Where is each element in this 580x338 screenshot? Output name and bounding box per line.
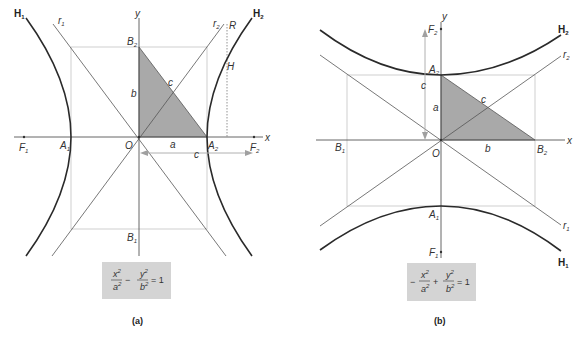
label-F1-b: F1: [429, 247, 438, 259]
label-O-a: O: [125, 140, 133, 151]
label-A2-a: A2: [207, 140, 219, 152]
label-x-b: x: [566, 135, 573, 146]
label-y-b: y: [441, 11, 448, 22]
figure-b: H2 H1 r2 r1 y x F2 F1 A2 A1 c a c b O B1…: [316, 11, 573, 326]
hyperbola-branch-H1-b: [320, 206, 561, 251]
figure-a: H1 H2 r1 r2 R H y x B2 B1 b c a O A1 A2 …: [14, 8, 271, 326]
caption-a: (a): [132, 316, 143, 326]
svg-text:+: +: [433, 277, 438, 287]
label-B2-b: B2: [537, 144, 548, 156]
label-A1-b: A1: [428, 209, 439, 221]
label-B1-a: B1: [127, 232, 137, 244]
label-a-b: a: [433, 102, 439, 113]
label-r2-a: r2: [213, 18, 220, 30]
label-r1-a: r1: [58, 15, 65, 27]
label-A1-a: A1: [59, 140, 70, 152]
label-O-b: O: [432, 148, 440, 159]
label-F2-a: F2: [250, 142, 260, 154]
label-H2-b: H2: [558, 24, 569, 36]
label-F1-a: F1: [19, 142, 28, 154]
focus-F1-dot-b: [440, 251, 442, 253]
label-y-a: y: [134, 8, 141, 19]
label-H1-b: H1: [558, 257, 569, 269]
focus-F2-dot-b: [440, 28, 442, 30]
label-c-arrow-b: c: [421, 80, 426, 91]
asymptote-r2-a: [52, 24, 224, 256]
label-a-a: a: [170, 139, 176, 150]
label-c-hyp-a: c: [168, 77, 173, 88]
hyperbola-diagrams: H1 H2 r1 r2 R H y x B2 B1 b c a O A1 A2 …: [0, 0, 580, 338]
origin-dot-a: [138, 136, 140, 138]
label-b-a: b: [131, 88, 137, 99]
arrowhead-down-b: [422, 132, 428, 140]
label-B1-b: B1: [335, 142, 345, 154]
svg-text:= 1: = 1: [151, 275, 164, 285]
label-F2-b: F2: [428, 24, 438, 36]
label-H-point-a: H: [227, 61, 235, 72]
label-r1-b: r1: [563, 220, 570, 232]
label-r2-b: r2: [563, 49, 570, 61]
label-c-arrow-a: c: [194, 149, 199, 160]
label-H1-a: H1: [14, 8, 25, 20]
hyperbola-branch-H2-b: [320, 30, 561, 75]
label-A2-b: A2: [428, 64, 440, 76]
focus-F1-dot-a: [23, 136, 25, 138]
label-b-b: b: [485, 143, 491, 154]
focus-F2-dot-a: [253, 136, 255, 138]
label-c-hyp-b: c: [481, 94, 486, 105]
caption-b: (b): [434, 316, 446, 326]
arrowhead-left-a: [140, 150, 148, 156]
label-R-a: R: [229, 20, 236, 31]
label-x-a: x: [264, 132, 271, 143]
svg-text:= 1: = 1: [457, 277, 470, 287]
svg-text:−: −: [125, 275, 130, 285]
label-B2-a: B2: [127, 36, 138, 48]
label-H2-a: H2: [253, 8, 264, 20]
origin-dot-b: [440, 139, 442, 141]
svg-text:−: −: [410, 277, 415, 287]
